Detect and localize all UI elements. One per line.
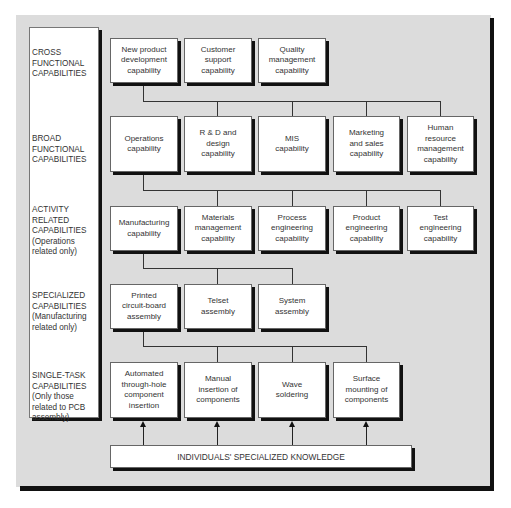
- arrow-line: [217, 426, 218, 445]
- arrow-line: [366, 426, 367, 445]
- connector: [440, 101, 441, 116]
- connector: [143, 268, 293, 269]
- connector: [440, 190, 441, 206]
- box-pcb-assembly: Printed circuit-board assembly: [110, 284, 178, 329]
- arrow-line: [292, 426, 293, 445]
- box-surface-mounting: Surface mounting of components: [333, 362, 400, 418]
- arrow-up-icon: [289, 421, 295, 427]
- connector: [217, 268, 218, 284]
- box-materials-management: Materials management capability: [184, 206, 252, 251]
- connector: [217, 101, 218, 116]
- connector: [143, 86, 144, 102]
- connector: [292, 190, 293, 206]
- box-system-assembly: System assembly: [258, 284, 326, 329]
- connector: [366, 346, 367, 362]
- box-process-engineering: Process engineering capability: [258, 206, 326, 251]
- individuals-specialized-knowledge-bar: INDIVIDUALS' SPECIALIZED KNOWLEDGE: [110, 445, 412, 468]
- connector: [292, 268, 293, 284]
- box-product-engineering: Product engineering capability: [333, 206, 400, 251]
- level-label-specialized: SPECIALIZED CAPABILITIES (Manufacturing …: [32, 291, 98, 333]
- arrow-up-icon: [363, 421, 369, 427]
- connector: [143, 175, 144, 191]
- level-label-activity-related: ACTIVITY RELATED CAPABILITIES (Operation…: [32, 205, 98, 258]
- box-customer-support: Customer support capability: [184, 38, 252, 83]
- box-marketing-sales: Marketing and sales capability: [333, 116, 400, 172]
- level-label-cross-functional: CROSS FUNCTIONAL CAPABILITIES: [32, 48, 98, 80]
- box-quality-management: Quality management capability: [258, 38, 326, 83]
- connector: [292, 346, 293, 362]
- arrow-up-icon: [214, 421, 220, 427]
- box-manufacturing: Manufacturing capability: [110, 206, 178, 251]
- connector: [366, 101, 367, 116]
- box-new-product-development: New product development capability: [110, 38, 178, 83]
- box-mis: MIS capability: [258, 116, 326, 172]
- connector: [143, 254, 144, 269]
- connector: [217, 346, 218, 362]
- connector: [143, 346, 367, 347]
- connector: [143, 332, 144, 347]
- arrow-up-icon: [140, 421, 146, 427]
- box-rd-design: R & D and design capability: [184, 116, 252, 172]
- level-label-broad-functional: BROAD FUNCTIONAL CAPABILITIES: [32, 134, 98, 166]
- connector: [217, 190, 218, 206]
- panel-shadow-bottom: [20, 486, 494, 491]
- box-telset-assembly: Telset assembly: [184, 284, 252, 329]
- box-manual-insertion: Manual insertion of components: [184, 362, 252, 418]
- box-test-engineering: Test engineering capability: [407, 206, 474, 251]
- box-wave-soldering: Wave soldering: [258, 362, 326, 418]
- connector: [366, 190, 367, 206]
- arrow-line: [143, 426, 144, 445]
- connector: [292, 101, 293, 116]
- level-label-single-task: SINGLE-TASK CAPABILITIES (Only those rel…: [32, 371, 98, 424]
- box-operations: Operations capability: [110, 116, 178, 172]
- box-automated-through-hole: Automated through-hole component inserti…: [110, 362, 178, 418]
- panel-shadow-right: [490, 18, 494, 491]
- box-human-resource: Human resource management capability: [407, 116, 474, 172]
